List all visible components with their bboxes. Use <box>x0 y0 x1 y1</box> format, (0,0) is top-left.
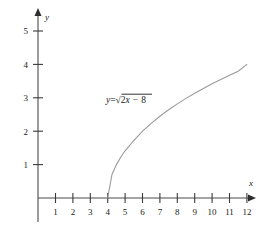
function-plot: 1 2 3 4 5 6 7 8 9 10 11 12 1 2 3 4 5 x y <box>0 0 264 233</box>
x-tick-label: 7 <box>158 207 163 217</box>
x-tick-label: 9 <box>192 207 197 217</box>
x-tick-label: 5 <box>123 207 128 217</box>
function-curve <box>108 64 247 198</box>
x-tick-label: 6 <box>140 207 145 217</box>
y-tick-label: 3 <box>24 93 29 103</box>
y-tick-labels: 1 2 3 4 5 <box>24 26 29 170</box>
y-axis-label: y <box>44 12 49 22</box>
arrow-right-icon <box>248 195 256 202</box>
x-tick-label: 1 <box>53 207 58 217</box>
chart-container: 1 2 3 4 5 6 7 8 9 10 11 12 1 2 3 4 5 x y <box>0 0 264 233</box>
arrow-up-icon <box>35 8 42 16</box>
radicand-constant: 8 <box>141 95 146 105</box>
x-tick-label: 12 <box>242 207 251 217</box>
x-tick-label: 2 <box>71 207 76 217</box>
radicand-minus: − <box>133 95 138 105</box>
x-tick-label: 8 <box>175 207 180 217</box>
y-tick-label: 2 <box>24 127 29 137</box>
y-tick-label: 4 <box>24 60 29 70</box>
radicand-variable: x <box>125 95 131 105</box>
x-axis-label: x <box>248 178 253 188</box>
equation-label: y=√2x−8 <box>105 94 152 105</box>
x-tick-labels: 1 2 3 4 5 6 7 8 9 10 11 12 <box>53 207 251 217</box>
svg-text:y=√2x−8: y=√2x−8 <box>105 95 146 105</box>
x-tick-label: 11 <box>225 207 234 217</box>
y-tick-label: 5 <box>24 26 29 36</box>
y-tick-label: 1 <box>24 160 29 170</box>
x-tick-label: 10 <box>208 207 218 217</box>
x-tick-label: 4 <box>105 207 110 217</box>
x-tick-label: 3 <box>88 207 93 217</box>
